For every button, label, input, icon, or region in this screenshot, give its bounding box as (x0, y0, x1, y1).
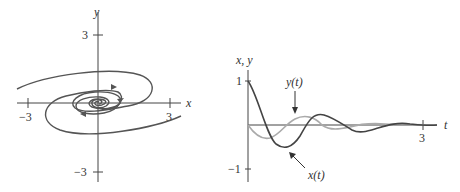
vertical-axis-label: x, y (235, 53, 253, 67)
time-series-plot: x, y t 1 −1 3 y(t) x(t) (228, 53, 448, 182)
arrow-head-icon (292, 107, 298, 114)
annotation-y-of-t: y(t) (285, 75, 303, 89)
tick-label-y-3: 3 (82, 28, 88, 42)
tick-label-3: 3 (419, 131, 425, 145)
arrow-x-of-t (292, 155, 305, 168)
tick-label-x-neg3: −3 (19, 110, 32, 124)
spiral-trajectory-2 (46, 90, 181, 133)
series-x-of-t (248, 81, 437, 147)
x-axis-label: x (185, 96, 192, 110)
y-axis-label: y (93, 5, 100, 19)
spiral-trajectory-1 (17, 71, 152, 111)
tick-label-neg1: −1 (228, 162, 241, 176)
series-y-of-t (248, 117, 437, 139)
t-axis-label: t (444, 118, 448, 132)
direction-arrow-icon (111, 84, 117, 90)
tick-label-y-neg3: −3 (74, 165, 87, 179)
figure: y x −3 3 3 −3 x, y t 1 −1 3 y(t) x(t) (0, 0, 460, 192)
annotation-x-of-t: x(t) (307, 168, 325, 182)
direction-arrow-icon (117, 98, 124, 103)
phase-portrait: y x −3 3 3 −3 (17, 5, 192, 182)
tick-label-1: 1 (236, 74, 242, 88)
